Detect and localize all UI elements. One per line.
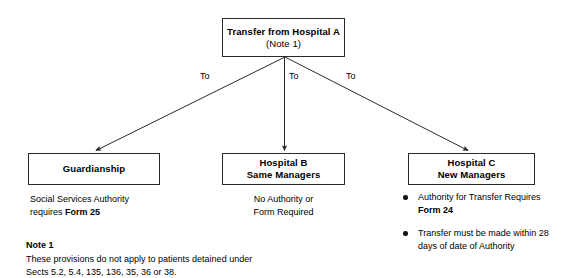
bullet-1-form-number: Form 24 bbox=[418, 205, 453, 215]
edge-label-to-hospital-c: To bbox=[346, 71, 356, 82]
caption-hospital-c-bullets: Authority for Transfer Requires Form 24 … bbox=[400, 191, 565, 263]
node-title-transfer-from-hospital-a: Transfer from Hospital A bbox=[227, 26, 340, 38]
arrow-to-hospital-c bbox=[285, 57, 468, 151]
note-title: Note 1 bbox=[26, 239, 326, 252]
node-title-hospital-b: Hospital B bbox=[260, 157, 308, 169]
list-item: Transfer must be made within 28 days of … bbox=[400, 227, 565, 252]
caption-hospital-b: No Authority or Form Required bbox=[222, 193, 345, 218]
caption-guardianship-form-number: Form 25 bbox=[65, 207, 100, 217]
caption-hospital-b-line2: Form Required bbox=[222, 206, 345, 219]
node-subtitle-hospital-b: Same Managers bbox=[247, 169, 321, 181]
caption-hospital-b-line1: No Authority or bbox=[222, 193, 345, 206]
node-subtitle-hospital-c: New Managers bbox=[438, 169, 506, 181]
edge-label-to-guardianship: To bbox=[200, 71, 210, 82]
note-body-line2: Sects 5.2, 5.4, 135, 136, 35, 36 or 38. bbox=[26, 266, 326, 278]
caption-guardianship-line2-prefix: requires bbox=[30, 207, 65, 217]
note-body-line1: These provisions do not apply to patient… bbox=[26, 253, 326, 266]
node-hospital-c: Hospital C New Managers bbox=[408, 153, 535, 185]
caption-guardianship-line1: Social Services Authority bbox=[30, 193, 190, 206]
list-item: Authority for Transfer Requires Form 24 bbox=[400, 191, 565, 216]
bullet-dot-icon bbox=[403, 195, 408, 200]
node-title-guardianship: Guardianship bbox=[63, 163, 125, 175]
bullet-2-text: Transfer must be made within 28 days of … bbox=[418, 228, 549, 251]
node-guardianship: Guardianship bbox=[28, 153, 160, 185]
caption-guardianship-line2: requires Form 25 bbox=[30, 206, 190, 219]
caption-guardianship: Social Services Authority requires Form … bbox=[30, 193, 190, 218]
arrow-to-guardianship bbox=[96, 57, 285, 151]
edge-label-to-hospital-b: To bbox=[289, 71, 299, 82]
bullet-dot-icon bbox=[403, 231, 408, 236]
node-title-hospital-c: Hospital C bbox=[448, 157, 496, 169]
note-block: Note 1 These provisions do not apply to … bbox=[26, 239, 326, 278]
node-hospital-b: Hospital B Same Managers bbox=[222, 153, 345, 185]
bullet-1-text: Authority for Transfer Requires bbox=[418, 192, 541, 202]
note-body: These provisions do not apply to patient… bbox=[26, 253, 326, 278]
node-subtitle-note-ref: (Note 1) bbox=[266, 38, 301, 50]
node-transfer-from-hospital-a: Transfer from Hospital A (Note 1) bbox=[222, 18, 345, 57]
